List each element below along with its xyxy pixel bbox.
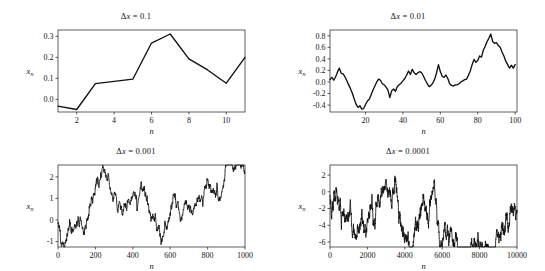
y-tick-label: 0.2: [316, 66, 326, 75]
x-tick-label: 8000: [472, 251, 488, 260]
y-tick-label: -1: [47, 237, 54, 246]
y-tick-label: -0.4: [313, 101, 326, 110]
x-tick-label: 20: [362, 116, 370, 125]
y-tick-label: -2: [319, 204, 326, 213]
x-tick-label: 8: [187, 116, 191, 125]
x-tick-label: 4: [112, 116, 116, 125]
plot-top-left: 0.00.10.20.3246810nxn: [0, 0, 272, 135]
y-tick-label: 0.8: [316, 32, 326, 41]
x-tick-label: 60: [436, 116, 444, 125]
y-tick-label: -0.2: [313, 89, 326, 98]
plot-bottom-right: -6-4-2020200040006000800010000nxn: [272, 135, 544, 270]
panel-bottom-left: Δx = 0.001 -101202004006008001000nxn: [0, 135, 272, 270]
x-tick-label: 6: [150, 116, 154, 125]
x-tick-label: 2: [75, 116, 79, 125]
series-line: [58, 34, 245, 109]
x-tick-label: 800: [202, 251, 214, 260]
plot-bottom-left: -101202004006008001000nxn: [0, 135, 272, 270]
x-tick-label: 2000: [359, 251, 375, 260]
x-tick-label: 4000: [397, 251, 413, 260]
x-tick-label: 200: [89, 251, 101, 260]
y-tick-label: 0.6: [316, 43, 326, 52]
y-axis-title: xn: [298, 66, 306, 77]
x-axis-title: n: [421, 261, 425, 271]
axis-frame: [330, 165, 517, 247]
y-axis-title: xn: [26, 66, 34, 77]
figure-canvas: Δx = 0.1 0.00.10.20.3246810nxn Δx = 0.01…: [0, 0, 545, 271]
y-tick-label: 0.2: [44, 53, 54, 62]
x-axis-title: n: [149, 261, 153, 271]
series-line: [330, 34, 515, 109]
y-tick-label: 2: [322, 171, 326, 180]
x-tick-label: 400: [127, 251, 139, 260]
y-tick-label: 0.4: [316, 55, 326, 64]
y-axis-title: xn: [298, 201, 306, 212]
y-tick-label: 0.0: [44, 95, 54, 104]
series-line: [58, 165, 245, 247]
x-tick-label: 1000: [237, 251, 253, 260]
plot-top-right: -0.4-0.20.00.20.40.60.820406080100nxn: [272, 0, 544, 135]
panel-top-left: Δx = 0.1 0.00.10.20.3246810nxn: [0, 0, 272, 135]
x-tick-label: 100: [509, 116, 521, 125]
x-tick-label: 10: [222, 116, 230, 125]
x-tick-label: 80: [474, 116, 482, 125]
y-tick-label: 0.3: [44, 32, 54, 41]
y-tick-label: 0: [50, 216, 54, 225]
x-tick-label: 0: [56, 251, 60, 260]
series-line: [330, 176, 517, 247]
axis-frame: [58, 165, 245, 247]
y-tick-label: 2: [50, 173, 54, 182]
y-tick-label: 1: [50, 194, 54, 203]
y-axis-title: xn: [26, 201, 34, 212]
panel-bottom-right: Δx = 0.0001 -6-4-20202000400060008000100…: [272, 135, 544, 270]
x-tick-label: 6000: [434, 251, 450, 260]
y-tick-label: 0.1: [44, 74, 54, 83]
x-tick-label: 0: [328, 251, 332, 260]
axis-frame: [330, 30, 517, 112]
x-tick-label: 10000: [507, 251, 527, 260]
x-tick-label: 600: [164, 251, 176, 260]
y-tick-label: 0.0: [316, 78, 326, 87]
y-tick-label: -6: [319, 238, 326, 247]
y-tick-label: 0: [322, 188, 326, 197]
x-tick-label: 40: [399, 116, 407, 125]
panel-top-right: Δx = 0.01 -0.4-0.20.00.20.40.60.82040608…: [272, 0, 544, 135]
y-tick-label: -4: [319, 221, 326, 230]
